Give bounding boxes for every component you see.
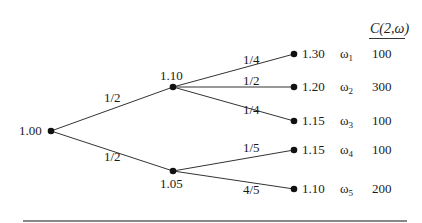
leaf-node-3	[291, 118, 298, 125]
bottom-rule	[23, 220, 407, 222]
leaf-c-value: 300	[372, 80, 392, 94]
leaf-node-5	[291, 186, 298, 193]
prob-up-3: 1/4	[243, 103, 260, 117]
prob-root-up: 1/2	[104, 91, 121, 105]
leaf-value: 1.15	[302, 143, 325, 157]
node-root	[48, 128, 55, 135]
leaf-c-value: 200	[372, 182, 392, 196]
edge-up-leaf3	[173, 87, 294, 121]
leaf-c-value: 100	[372, 47, 392, 61]
edge-down-leaf4	[173, 150, 294, 171]
leaf-node-1	[291, 51, 298, 58]
leaf-omega: ω3	[340, 114, 353, 132]
leaf-value: 1.15	[302, 114, 325, 128]
leaf-value: 1.30	[302, 47, 325, 61]
node-down	[170, 168, 177, 175]
edge-down-leaf5	[173, 171, 294, 189]
edge-up-leaf1	[173, 54, 294, 87]
node-up-value: 1.10	[160, 69, 183, 83]
leaf-c-value: 100	[372, 143, 392, 157]
prob-down-5: 4/5	[243, 183, 260, 197]
leaf-value: 1.20	[302, 80, 325, 94]
node-up	[170, 84, 177, 91]
leaf-omega: ω1	[340, 47, 353, 65]
prob-down-4: 1/5	[243, 141, 260, 155]
column-header-underline	[369, 38, 405, 39]
leaf-c-value: 100	[372, 114, 392, 128]
leaf-omega: ω4	[340, 143, 353, 161]
leaf-value: 1.10	[302, 182, 325, 196]
column-header-c: C(2,ω)	[370, 21, 409, 36]
prob-root-down: 1/2	[104, 150, 121, 164]
leaf-omega: ω5	[340, 182, 353, 200]
leaf-omega: ω2	[340, 80, 353, 98]
prob-up-2: 1/2	[243, 74, 260, 88]
node-root-value: 1.00	[19, 124, 42, 138]
leaf-node-4	[291, 147, 298, 154]
tree-edges	[0, 0, 422, 223]
node-down-value: 1.05	[160, 177, 183, 191]
prob-up-1: 1/4	[243, 53, 260, 67]
leaf-node-2	[291, 84, 298, 91]
